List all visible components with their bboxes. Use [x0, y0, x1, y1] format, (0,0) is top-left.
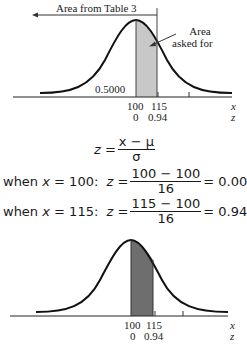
example-prefix: when: [3, 175, 38, 189]
example-cond: = 115:: [54, 205, 98, 219]
example-lhs: z =: [107, 175, 129, 189]
example-x-100: when x = 100: z = 100 − 100 16 = 0.00: [3, 167, 247, 196]
example-prefix: when: [3, 205, 38, 219]
z-tick-label-094: 0.94: [148, 112, 167, 123]
example-result: = 0.94: [203, 205, 247, 219]
formula-fraction: x − μ σ: [118, 135, 155, 164]
example-x-115: when x = 115: z = 115 − 100 16 = 0.94: [3, 197, 247, 226]
formula-denominator: σ: [132, 150, 140, 164]
z-axis-label: z: [231, 112, 235, 123]
example-result: = 0.00: [203, 175, 247, 189]
z-score-formula: z = x − μ σ: [94, 135, 157, 164]
left-arrow-icon: [32, 13, 38, 18]
area-asked-for-label-line1: Area: [180, 26, 220, 37]
shaded-area: [131, 240, 153, 316]
example-denominator: 16: [158, 212, 175, 226]
left-area-value: 0.5000: [95, 84, 125, 95]
bottom-z-tick-label-094: 0.94: [144, 331, 163, 342]
example-numerator: 115 − 100: [130, 197, 201, 212]
formula-lhs: z =: [94, 143, 116, 157]
example-numerator: 100 − 100: [130, 167, 201, 182]
example-var: x: [42, 175, 50, 189]
example-lhs: z =: [107, 205, 129, 219]
area-from-table-label: Area from Table 3: [56, 3, 137, 14]
area-asked-for-label-line2: asked for: [172, 38, 213, 49]
example-fraction: 115 − 100 16: [130, 197, 201, 226]
example-var: x: [42, 205, 50, 219]
bottom-z-axis-label: z: [230, 331, 234, 342]
shaded-area-asked-for: [136, 20, 157, 97]
z-tick-label-0: 0: [133, 112, 139, 123]
example-cond: = 100:: [54, 175, 98, 189]
example-fraction: 100 − 100 16: [130, 167, 201, 196]
example-denominator: 16: [158, 182, 175, 196]
bottom-z-tick-label-0: 0: [130, 331, 136, 342]
top-normal-curve-chart: [0, 0, 247, 130]
formula-numerator: x − μ: [118, 135, 155, 150]
